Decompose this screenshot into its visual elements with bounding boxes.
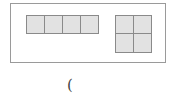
row-grid-cell xyxy=(80,15,99,34)
row-grid-cell xyxy=(44,15,63,34)
square-grid-cell xyxy=(115,33,134,53)
row-grid-cell xyxy=(62,15,81,34)
square-grid-cell xyxy=(133,33,152,53)
caption-text: ( xyxy=(67,76,73,94)
square-grid-cell xyxy=(115,15,134,34)
row-grid-cell xyxy=(26,15,45,34)
square-grid-cell xyxy=(133,15,152,34)
